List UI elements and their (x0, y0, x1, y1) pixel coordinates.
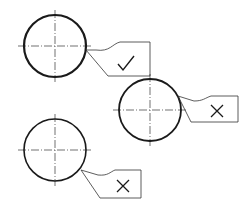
cutting-tool-outline (178, 96, 238, 122)
cutting-tool-outline (86, 42, 150, 76)
case-group-2 (113, 74, 238, 146)
case-group-3 (18, 114, 141, 198)
case-group-1 (18, 10, 150, 82)
x-mark-icon (211, 105, 223, 117)
tool-contact-diagram (0, 0, 248, 216)
check-mark-icon (118, 56, 134, 70)
cutting-tool-outline (81, 170, 141, 198)
x-mark-icon (117, 180, 129, 192)
